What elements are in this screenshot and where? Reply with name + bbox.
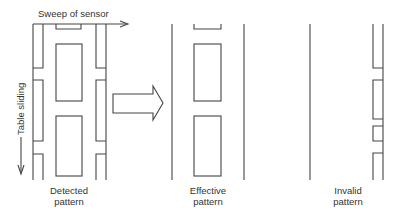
block-arrow-right-icon xyxy=(113,86,163,120)
sweep-label: Sweep of sensor xyxy=(38,8,109,19)
effective-label-1: Effective xyxy=(190,185,226,196)
pattern-diagram: Sweep of sensor Table sliding Detected p… xyxy=(0,0,399,215)
detected-label-2: pattern xyxy=(54,196,84,207)
effective-pattern xyxy=(172,24,244,180)
invalid-label-1: Invalid xyxy=(334,185,361,196)
detected-pattern xyxy=(33,24,106,180)
invalid-label-2: pattern xyxy=(333,196,363,207)
invalid-pattern xyxy=(310,24,383,180)
table-sliding-arrow xyxy=(18,137,24,174)
detected-label-1: Detected xyxy=(50,185,88,196)
table-sliding-label: Table sliding xyxy=(15,83,26,135)
effective-label-2: pattern xyxy=(193,196,223,207)
